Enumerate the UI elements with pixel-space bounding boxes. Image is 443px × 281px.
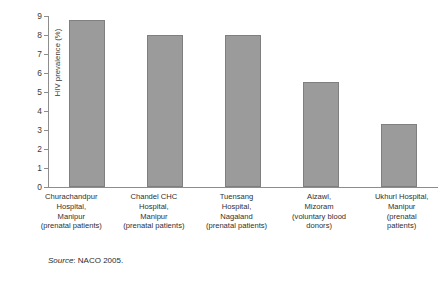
y-axis-tick-mark (44, 149, 48, 150)
x-axis-category-label: TuensangHospital,Nagaland(prenatal patie… (195, 192, 278, 231)
x-axis-category-label: Ukhurl Hospital,Manipur(prenatalpatients… (360, 192, 443, 231)
plot-area: 0123456789 (48, 16, 438, 188)
x-axis-category-label-line: Manipur (30, 212, 113, 222)
x-axis-category-label-line: (voluntary blood (278, 212, 361, 222)
y-axis-tick-label: 0 (37, 182, 42, 192)
y-axis-tick-mark (44, 130, 48, 131)
x-axis-category-label-line: Nagaland (195, 212, 278, 222)
x-axis-category-label-line: Hospital, (30, 202, 113, 212)
x-axis-category-label-line: (prenatal (360, 212, 443, 222)
source-note: Source: NACO 2005. (48, 256, 123, 265)
bar (147, 35, 183, 187)
y-axis-tick-mark (44, 54, 48, 55)
y-axis-tick-mark (44, 16, 48, 17)
y-axis-tick-mark (44, 73, 48, 74)
source-text: NACO 2005. (78, 256, 123, 265)
x-axis-category-label-line: Mizoram (278, 202, 361, 212)
x-axis-category-label: Chandel CHCHospital,Manipur(prenatal pat… (113, 192, 196, 231)
y-axis-tick-label: 5 (37, 87, 42, 97)
x-axis-category-label: Aizawl,Mizoram(voluntary blooddonors) (278, 192, 361, 231)
x-axis-category-label-line: Churachandpur (30, 192, 113, 202)
x-axis-category-label: ChurachandpurHospital,Manipur(prenatal p… (30, 192, 113, 231)
y-axis-tick-label: 8 (37, 30, 42, 40)
bar (303, 82, 339, 187)
x-axis-category-label-line: Chandel CHC (113, 192, 196, 202)
x-axis-category-label-line: Aizawl, (278, 192, 361, 202)
y-axis-tick-mark (44, 187, 48, 188)
y-axis-tick-label: 9 (37, 11, 42, 21)
x-axis-category-labels: ChurachandpurHospital,Manipur(prenatal p… (30, 192, 443, 250)
y-axis-tick-label: 7 (37, 49, 42, 59)
y-axis-spine (48, 16, 49, 188)
x-axis-category-label-line: donors) (278, 221, 361, 231)
y-axis-tick-label: 1 (37, 163, 42, 173)
x-axis-category-label-line: Tuensang (195, 192, 278, 202)
y-axis-tick-mark (44, 35, 48, 36)
bar (381, 124, 417, 187)
bar (225, 35, 261, 187)
x-axis-category-label-line: Manipur (113, 212, 196, 222)
y-axis-tick-mark (44, 168, 48, 169)
x-axis-category-label-line: (prenatal patients) (195, 221, 278, 231)
x-axis-baseline (48, 187, 438, 188)
bar (69, 20, 105, 187)
x-axis-category-label-line: (prenatal patients) (30, 221, 113, 231)
y-axis-tick-label: 2 (37, 144, 42, 154)
x-axis-category-label-line: Hospital, (113, 202, 196, 212)
x-axis-category-label-line: Hospital, (195, 202, 278, 212)
x-axis-category-label-line: Ukhurl Hospital, (360, 192, 443, 202)
x-axis-category-label-line: (prenatal patients) (113, 221, 196, 231)
y-axis-tick-label: 6 (37, 68, 42, 78)
y-axis-tick-mark (44, 92, 48, 93)
y-axis-tick-label: 4 (37, 106, 42, 116)
x-axis-category-label-line: Manipur (360, 202, 443, 212)
hiv-prevalence-bar-chart: HIV prevalence (%) 0123456789 Churachand… (0, 0, 443, 281)
y-axis-tick-label: 3 (37, 125, 42, 135)
y-axis-tick-mark (44, 111, 48, 112)
source-label: Source (48, 256, 73, 265)
x-axis-category-label-line: patients) (360, 221, 443, 231)
